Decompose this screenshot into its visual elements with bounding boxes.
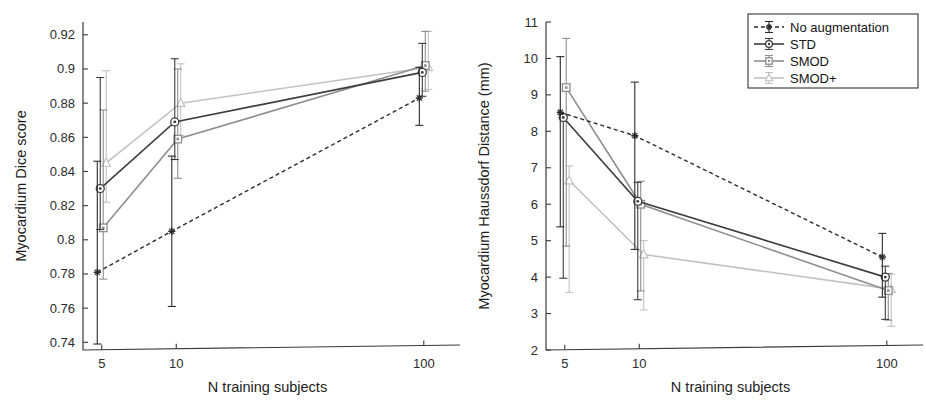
y-tick-label: 0.88 bbox=[50, 96, 75, 111]
x-tick-label: 5 bbox=[98, 356, 105, 371]
series-line bbox=[563, 117, 885, 277]
circle-marker-core-icon bbox=[636, 200, 639, 203]
marker-star bbox=[879, 253, 886, 260]
y-tick-label: 9 bbox=[531, 87, 538, 102]
legend-label: STD bbox=[790, 37, 816, 52]
square-marker-core-icon bbox=[887, 289, 890, 292]
square-marker-core-icon bbox=[176, 138, 179, 141]
marker-star bbox=[94, 269, 101, 276]
y-tick-label: 5 bbox=[531, 233, 538, 248]
series-line bbox=[97, 98, 419, 272]
x-axis-title: N training subjects bbox=[671, 379, 790, 395]
legend-item-smod-[interactable]: SMOD+ bbox=[754, 71, 837, 86]
y-tick-label: 0.78 bbox=[50, 266, 75, 281]
series-no-augmentation bbox=[93, 67, 423, 344]
circle-marker-core-icon bbox=[562, 116, 565, 119]
series-std bbox=[559, 113, 889, 319]
y-tick-label: 6 bbox=[531, 197, 538, 212]
series-line bbox=[566, 88, 888, 291]
legend-label: SMOD bbox=[790, 54, 829, 69]
x-tick-label: 5 bbox=[561, 356, 568, 371]
x-tick-label: 100 bbox=[413, 356, 435, 371]
marker-square bbox=[766, 58, 772, 64]
legend-label: SMOD+ bbox=[790, 71, 837, 86]
y-tick-label: 0.82 bbox=[50, 198, 75, 213]
x-axis-title: N training subjects bbox=[208, 379, 327, 395]
y-axis-title: Myocardium Dice score bbox=[13, 110, 29, 262]
marker-star bbox=[631, 132, 638, 139]
series-std bbox=[96, 43, 426, 229]
y-tick-label: 11 bbox=[525, 15, 539, 30]
chart-panel-hausdorff: 234567891011510100N training subjectsMyo… bbox=[463, 0, 926, 408]
square-marker-core-icon bbox=[768, 60, 770, 62]
marker-star bbox=[416, 94, 423, 101]
y-tick-label: 0.84 bbox=[50, 164, 75, 179]
legend-label: No augmentation bbox=[790, 20, 889, 35]
series-smod- bbox=[102, 31, 433, 202]
legend: No augmentationSTDSMODSMOD+ bbox=[748, 14, 918, 88]
x-tick-label: 10 bbox=[632, 356, 646, 371]
marker-circle bbox=[171, 118, 179, 126]
figure-root: 0.740.760.780.80.820.840.860.880.90.9251… bbox=[0, 0, 926, 408]
series-smod bbox=[99, 31, 429, 279]
marker-star bbox=[766, 24, 772, 30]
square-marker-core-icon bbox=[102, 227, 105, 230]
circle-marker-core-icon bbox=[173, 121, 176, 124]
series-line bbox=[103, 66, 425, 228]
series-line bbox=[560, 112, 882, 257]
series-smod- bbox=[565, 166, 896, 326]
marker-star bbox=[557, 109, 564, 116]
circle-marker-core-icon bbox=[884, 276, 887, 279]
chart-panel-dice: 0.740.760.780.80.820.840.860.880.90.9251… bbox=[0, 0, 463, 408]
y-tick-label: 3 bbox=[531, 306, 538, 321]
y-tick-label: 0.86 bbox=[50, 130, 75, 145]
y-tick-label: 8 bbox=[531, 124, 538, 139]
x-tick-label: 100 bbox=[876, 356, 898, 371]
y-tick-label: 10 bbox=[524, 51, 538, 66]
y-tick-label: 0.8 bbox=[57, 232, 75, 247]
circle-marker-core-icon bbox=[421, 71, 424, 74]
marker-star bbox=[168, 228, 175, 235]
y-tick-label: 0.9 bbox=[57, 61, 75, 76]
circle-marker-core-icon bbox=[768, 43, 770, 45]
legend-item-smod[interactable]: SMOD bbox=[754, 54, 829, 69]
square-marker-core-icon bbox=[424, 64, 427, 67]
y-tick-label: 7 bbox=[531, 160, 538, 175]
series-no-augmentation bbox=[556, 57, 886, 298]
square-marker-core-icon bbox=[565, 86, 568, 89]
dice-score-plot: 0.740.760.780.80.820.840.860.880.90.9251… bbox=[0, 0, 463, 408]
series-line bbox=[100, 72, 422, 188]
y-tick-label: 2 bbox=[531, 343, 538, 358]
y-tick-label: 4 bbox=[531, 270, 538, 285]
hausdorff-distance-plot: 234567891011510100N training subjectsMyo… bbox=[463, 0, 926, 408]
marker-circle bbox=[766, 41, 773, 48]
y-tick-label: 0.92 bbox=[50, 27, 75, 42]
x-tick-label: 10 bbox=[169, 356, 183, 371]
circle-marker-core-icon bbox=[99, 187, 102, 190]
y-axis-title: Myocardium Haussdorf Distance (mm) bbox=[476, 62, 492, 309]
marker-square bbox=[562, 84, 570, 92]
y-tick-label: 0.74 bbox=[50, 335, 75, 350]
y-tick-label: 0.76 bbox=[50, 301, 75, 316]
